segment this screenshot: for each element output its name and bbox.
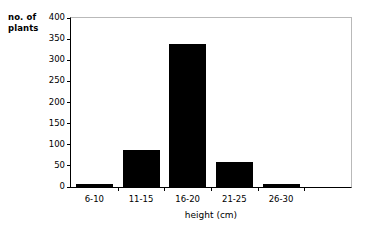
x-axis-tick-mark — [258, 187, 259, 191]
y-axis-tick-mark — [67, 165, 71, 166]
y-axis-tick-label: 250 — [49, 75, 65, 86]
y-axis-tick-mark — [67, 18, 71, 19]
x-axis-tick-mark — [164, 187, 165, 191]
x-axis-tick-label: 21-25 — [222, 194, 247, 205]
bar — [76, 184, 113, 187]
x-axis-tick-label: 6-10 — [85, 194, 104, 205]
y-axis-title-line-1: no. of — [8, 12, 36, 22]
bar — [216, 162, 253, 187]
bar-chart: no. of plants 050100150200250300350400 6… — [0, 0, 370, 227]
y-axis-tick-mark — [67, 123, 71, 124]
x-axis-tick-mark — [118, 187, 119, 191]
y-axis-tick-mark — [67, 39, 71, 40]
bar — [123, 150, 160, 187]
x-axis-tick-mark — [211, 187, 212, 191]
y-axis-tick-mark — [67, 144, 71, 145]
y-axis-tick-label: 50 — [54, 160, 65, 171]
y-axis-tick-label: 300 — [49, 54, 65, 65]
y-axis-tick-label: 150 — [49, 118, 65, 129]
y-axis-tick-mark — [67, 81, 71, 82]
y-axis-tick-label: 100 — [49, 139, 65, 150]
y-axis-tick-mark — [67, 60, 71, 61]
plot-frame: 050100150200250300350400 — [70, 17, 352, 188]
x-axis-tick-mark — [304, 187, 305, 191]
y-axis-tick-label: 200 — [49, 97, 65, 108]
y-axis-title-line-2: plants — [8, 23, 39, 33]
bar — [263, 184, 300, 187]
x-axis-tick-label: 11-15 — [129, 194, 154, 205]
y-axis-tick-mark — [67, 102, 71, 103]
bar — [169, 44, 206, 187]
y-axis-tick-mark — [67, 187, 71, 188]
x-axis-title: height (cm) — [70, 209, 352, 221]
y-axis-tick-label: 350 — [49, 33, 65, 44]
x-axis-tick-label: 26-30 — [269, 194, 294, 205]
y-axis-tick-label: 400 — [49, 12, 65, 23]
x-axis-tick-label: 16-20 — [175, 194, 200, 205]
plot-area: 050100150200250300350400 — [71, 18, 351, 187]
y-axis-tick-label: 0 — [60, 181, 65, 192]
